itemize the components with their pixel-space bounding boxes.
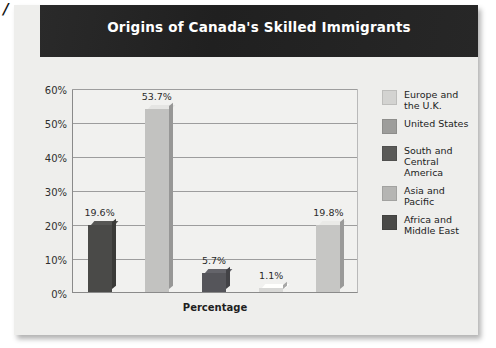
legend-item[interactable]: United States xyxy=(382,118,474,138)
legend-swatch xyxy=(382,215,397,230)
legend-swatch xyxy=(382,119,397,134)
bar-front-face xyxy=(88,225,112,292)
chart-card: Origins of Canada's Skilled Immigrants 0… xyxy=(14,5,478,335)
y-axis-tick: 0% xyxy=(51,289,67,300)
page-title: Origins of Canada's Skilled Immigrants xyxy=(40,19,478,35)
legend-swatch xyxy=(382,146,397,161)
chart-legend: Europe and the U.K.United StatesSouth an… xyxy=(382,89,474,243)
bar-side-face xyxy=(340,218,344,289)
y-axis-tick: 10% xyxy=(45,255,67,266)
bar-side-face xyxy=(226,266,230,289)
bar: 53.7% xyxy=(145,109,169,292)
bar-value-label: 1.1% xyxy=(259,270,283,281)
legend-item[interactable]: Africa and Middle East xyxy=(382,214,474,236)
legend-item[interactable]: Asia and Pacific xyxy=(382,185,474,207)
gridline xyxy=(73,157,357,158)
bar: 19.8% xyxy=(316,225,340,292)
y-axis-tick: 30% xyxy=(45,187,67,198)
legend-label: Africa and Middle East xyxy=(404,214,459,236)
gridline xyxy=(73,293,357,294)
y-axis-tick: 60% xyxy=(45,85,67,96)
legend-label: United States xyxy=(404,118,468,129)
legend-swatch xyxy=(382,186,397,201)
legend-label: South and Central America xyxy=(404,145,474,178)
legend-label: Europe and the U.K. xyxy=(404,89,458,111)
y-axis-tick: 50% xyxy=(45,119,67,130)
gridline xyxy=(73,191,357,192)
bar-front-face xyxy=(316,225,340,292)
bar-value-label: 19.8% xyxy=(313,207,343,218)
legend-item[interactable]: Europe and the U.K. xyxy=(382,89,474,111)
bar-side-face xyxy=(169,103,173,289)
bar-value-label: 5.7% xyxy=(202,255,226,266)
bar-side-face xyxy=(112,219,116,289)
bar: 19.6% xyxy=(88,225,112,292)
title-bar: Origins of Canada's Skilled Immigrants xyxy=(40,5,478,57)
plot-area: 0%10%20%30%40%50%60%19.6%53.7%5.7%1.1%19… xyxy=(72,89,358,293)
bar-front-face xyxy=(145,109,169,292)
scan-artifact: / xyxy=(3,1,13,17)
gridline xyxy=(73,123,357,124)
gridline xyxy=(73,89,357,90)
y-axis-tick: 40% xyxy=(45,153,67,164)
bar-chart: 0%10%20%30%40%50%60%19.6%53.7%5.7%1.1%19… xyxy=(14,57,478,335)
bar-front-face xyxy=(259,288,283,292)
bar-front-face xyxy=(202,273,226,292)
legend-swatch xyxy=(382,90,397,105)
legend-label: Asia and Pacific xyxy=(404,185,445,207)
bar: 1.1% xyxy=(259,288,283,292)
bar: 5.7% xyxy=(202,273,226,292)
x-axis-label: Percentage xyxy=(72,302,358,313)
bar-value-label: 19.6% xyxy=(85,207,115,218)
y-axis-tick: 20% xyxy=(45,221,67,232)
legend-item[interactable]: South and Central America xyxy=(382,145,474,178)
bar-value-label: 53.7% xyxy=(142,91,172,102)
